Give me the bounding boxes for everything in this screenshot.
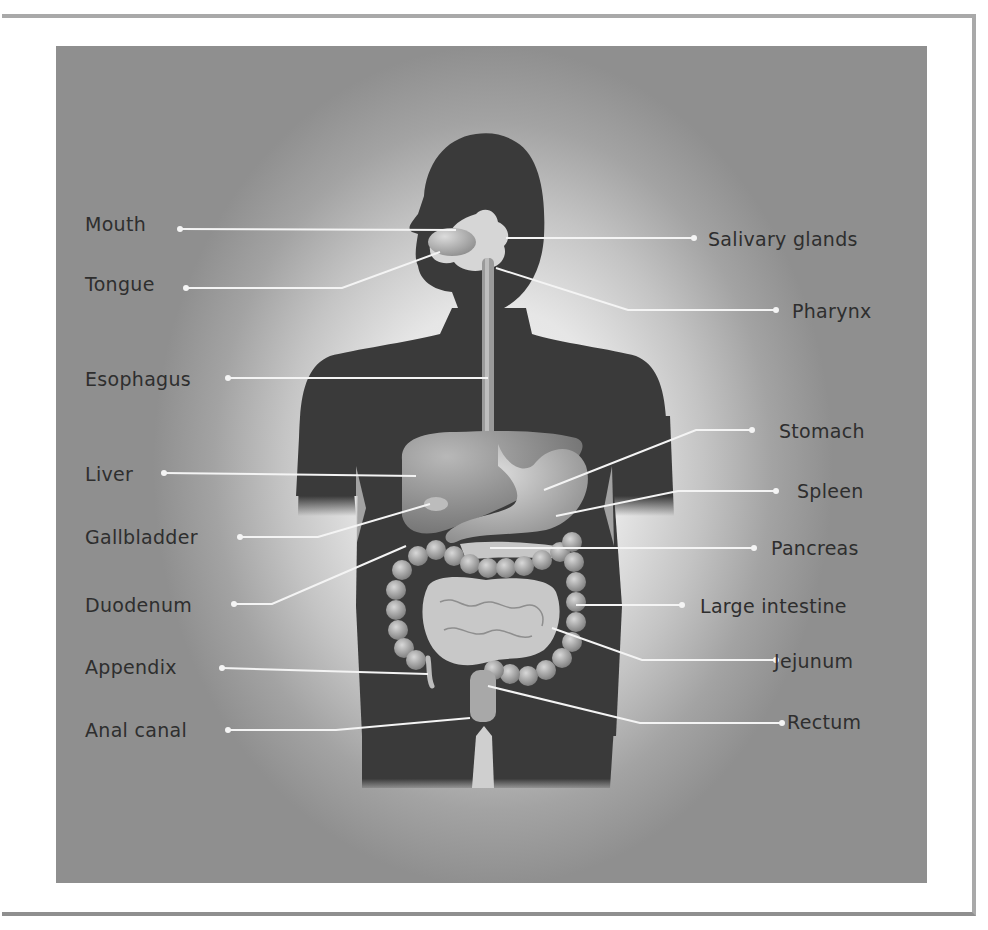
label-mouth: Mouth	[85, 213, 146, 235]
rectum-organ	[470, 670, 496, 722]
digestive-system-diagram: Mouth Tongue Esophagus Liver Gallbladder…	[56, 46, 927, 883]
label-pharynx: Pharynx	[792, 300, 872, 322]
label-anal-canal: Anal canal	[85, 719, 187, 741]
label-jejunum: Jejunum	[774, 650, 853, 672]
label-stomach: Stomach	[779, 420, 865, 442]
label-large-intestine: Large intestine	[700, 595, 847, 617]
label-tongue: Tongue	[85, 273, 155, 295]
anatomy-illustration	[56, 46, 927, 883]
label-salivary-glands: Salivary glands	[708, 228, 858, 250]
label-gallbladder: Gallbladder	[85, 526, 198, 548]
label-duodenum: Duodenum	[85, 594, 192, 616]
label-pancreas: Pancreas	[771, 537, 859, 559]
jejunum-organ	[422, 577, 559, 665]
label-rectum: Rectum	[787, 711, 861, 733]
label-appendix: Appendix	[85, 656, 177, 678]
label-esophagus: Esophagus	[85, 368, 191, 390]
mouth-organ	[428, 228, 476, 256]
label-spleen: Spleen	[797, 480, 864, 502]
label-liver: Liver	[85, 463, 133, 485]
